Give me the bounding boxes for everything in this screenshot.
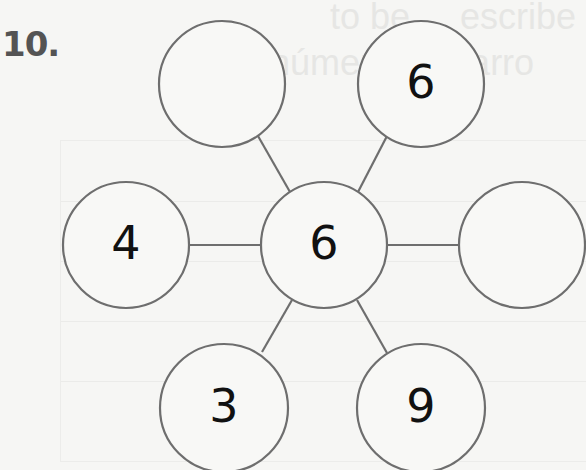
spoke-top-left	[258, 136, 290, 192]
left-value: 4	[86, 213, 166, 273]
spoke-bottom-left	[262, 300, 292, 352]
center-value: 6	[284, 213, 364, 273]
spoke-bottom-right	[357, 300, 387, 353]
top-right-value: 6	[381, 52, 461, 112]
top-left-value-blank[interactable]	[182, 52, 262, 112]
bottom-right-value: 9	[381, 376, 461, 436]
bottom-left-value: 3	[184, 376, 264, 436]
spoke-top-right	[358, 136, 387, 192]
right-value-blank[interactable]	[482, 213, 562, 273]
